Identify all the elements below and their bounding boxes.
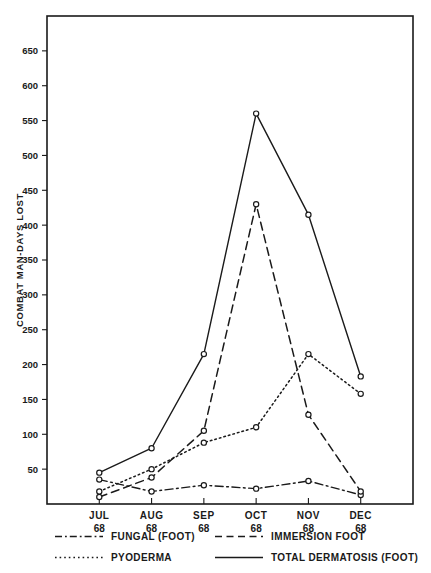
data-point-marker	[201, 483, 206, 488]
line-chart: 50100150200250300350400450500550600650 J…	[0, 0, 431, 573]
data-point-marker	[254, 111, 259, 116]
y-tick-label: 500	[22, 150, 38, 161]
x-tick-label-month: NOV	[297, 510, 320, 521]
y-tick-label: 600	[22, 80, 38, 91]
series-layer	[97, 111, 364, 500]
data-point-marker	[97, 494, 102, 499]
y-tick-label: 150	[22, 394, 38, 405]
data-point-marker	[201, 428, 206, 433]
data-point-marker	[149, 475, 154, 480]
legend-label-2: PYODERMA	[111, 552, 172, 563]
data-point-marker	[358, 391, 363, 396]
data-point-marker	[254, 202, 259, 207]
plot-frame	[47, 16, 413, 504]
data-point-marker	[97, 477, 102, 482]
y-tick-label: 650	[22, 45, 38, 56]
chart-legend: FUNGAL (FOOT)IMMERSION FOOTPYODERMATOTAL…	[55, 531, 418, 563]
y-tick-label: 550	[22, 115, 38, 126]
data-point-marker	[306, 478, 311, 483]
data-point-marker	[306, 412, 311, 417]
x-tick-label-year: 68	[94, 523, 106, 534]
y-tick-label: 100	[22, 429, 38, 440]
x-tick-label-month: OCT	[245, 510, 268, 521]
x-tick-label-month: SEP	[193, 510, 215, 521]
series-line-2	[99, 354, 360, 491]
data-point-marker	[201, 352, 206, 357]
x-tick-label-month: DEC	[349, 510, 372, 521]
data-point-marker	[358, 489, 363, 494]
data-point-marker	[254, 425, 259, 430]
data-point-marker	[149, 446, 154, 451]
y-axis-title: COMBAT MAN-DAYS LOST	[14, 193, 25, 327]
legend-label-0: FUNGAL (FOOT)	[111, 531, 195, 542]
data-point-marker	[201, 440, 206, 445]
x-tick-label-year: 68	[198, 523, 210, 534]
x-tick-label-month: JUL	[89, 510, 109, 521]
x-tick-label-month: AUG	[140, 510, 164, 521]
series-line-1	[99, 204, 360, 497]
legend-label-1: IMMERSION FOOT	[271, 531, 365, 542]
x-tick-label-year: 68	[251, 523, 263, 534]
data-point-marker	[97, 470, 102, 475]
series-line-3	[99, 114, 360, 473]
data-point-marker	[254, 486, 259, 491]
chart-figure: 50100150200250300350400450500550600650 J…	[0, 0, 431, 573]
data-point-marker	[306, 352, 311, 357]
data-point-marker	[306, 212, 311, 217]
y-tick-label: 200	[22, 359, 38, 370]
legend-label-3: TOTAL DERMATOSIS (FOOT)	[271, 552, 418, 563]
data-point-marker	[358, 374, 363, 379]
y-tick-label: 50	[27, 464, 38, 475]
data-point-marker	[149, 489, 154, 494]
data-point-marker	[97, 489, 102, 494]
data-point-marker	[149, 467, 154, 472]
y-axis: 50100150200250300350400450500550600650	[22, 45, 47, 474]
